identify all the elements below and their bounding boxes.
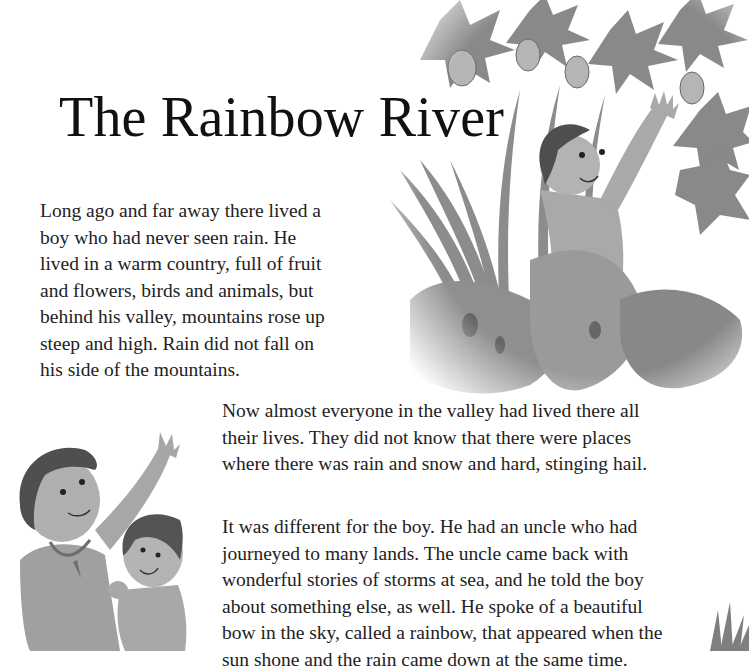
grass-corner-illustration	[700, 600, 749, 651]
text-line: and flowers, birds and animals, but	[40, 278, 325, 305]
text-line: Now almost everyone in the valley had li…	[222, 398, 647, 425]
text-line: bow in the sky, called a rainbow, that a…	[222, 620, 662, 647]
boy-reaching-for-fruit-illustration	[380, 0, 749, 400]
text-line: lived in a warm country, full of fruit	[40, 251, 325, 278]
text-line: his side of the mountains.	[40, 357, 325, 384]
story-paragraph-1: Long ago and far away there lived a boy …	[40, 198, 325, 384]
text-line: steep and high. Rain did not fall on	[40, 331, 325, 358]
text-line: sun shone and the rain came down at the …	[222, 647, 662, 670]
text-line: where there was rain and snow and hard, …	[222, 451, 647, 478]
text-line: about something else, as well. He spoke …	[222, 594, 662, 621]
text-line: boy who had never seen rain. He	[40, 225, 325, 252]
text-line: journeyed to many lands. The uncle came …	[222, 541, 662, 568]
text-line: It was different for the boy. He had an …	[222, 514, 662, 541]
uncle-and-boy-pointing-illustration	[0, 410, 215, 651]
text-line: behind his valley, mountains rose up	[40, 304, 325, 331]
story-title: The Rainbow River	[59, 82, 504, 152]
text-line: wonderful stories of storms at sea, and …	[222, 567, 662, 594]
text-line: their lives. They did not know that ther…	[222, 425, 647, 452]
text-line: Long ago and far away there lived a	[40, 198, 325, 225]
story-paragraph-2: Now almost everyone in the valley had li…	[222, 398, 647, 478]
story-paragraph-3: It was different for the boy. He had an …	[222, 514, 662, 670]
